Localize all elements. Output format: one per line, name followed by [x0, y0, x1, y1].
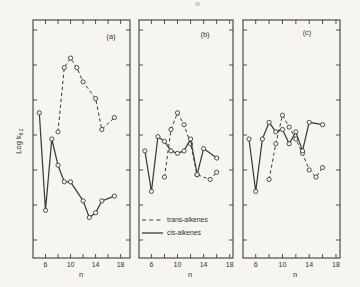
- panel-letter: (c): [303, 28, 312, 37]
- data-point-marker: [162, 139, 166, 143]
- data-point-marker: [314, 175, 318, 179]
- x-tick-label: 14: [305, 261, 313, 268]
- data-point-marker: [267, 120, 271, 124]
- data-point-marker: [175, 151, 179, 155]
- data-point-marker: [274, 142, 278, 146]
- y-axis-label: Log k6 2: [14, 128, 24, 154]
- data-point-marker: [307, 168, 311, 172]
- data-point-marker: [156, 135, 160, 139]
- scientific-figure: 6101418(a)n6101418(b)n6101418(c)nLog k6 …: [0, 0, 360, 287]
- x-tick-label: 14: [200, 261, 208, 268]
- x-axis-label: n: [188, 270, 192, 279]
- data-point-marker: [169, 149, 173, 153]
- data-point-marker: [100, 199, 104, 203]
- trans-series-line: [58, 58, 114, 132]
- data-point-marker: [254, 189, 258, 193]
- x-tick-label: 14: [92, 261, 100, 268]
- data-point-marker: [287, 125, 291, 129]
- data-point-marker: [75, 66, 79, 70]
- data-point-marker: [112, 194, 116, 198]
- data-point-marker: [274, 130, 278, 134]
- x-tick-label: 10: [279, 261, 287, 268]
- x-tick-label: 10: [174, 261, 182, 268]
- data-point-marker: [93, 211, 97, 215]
- data-point-marker: [182, 149, 186, 153]
- data-point-marker: [50, 137, 54, 141]
- data-point-marker: [321, 165, 325, 169]
- data-point-marker: [162, 175, 166, 179]
- chart-panel: 6101418(a)n: [33, 20, 130, 279]
- panel-letter: (b): [200, 30, 210, 39]
- data-point-marker: [37, 111, 41, 115]
- data-point-marker: [202, 146, 206, 150]
- data-point-marker: [208, 177, 212, 181]
- x-tick-label: 6: [254, 261, 258, 268]
- data-point-marker: [87, 215, 91, 219]
- x-tick-label: 18: [332, 261, 340, 268]
- x-tick-label: 6: [149, 261, 153, 268]
- x-tick-label: 6: [44, 261, 48, 268]
- data-point-marker: [195, 173, 199, 177]
- alkene-log-k-chart: 6101418(a)n6101418(b)n6101418(c)nLog k6 …: [0, 0, 360, 287]
- data-point-marker: [247, 137, 251, 141]
- x-axis-label: n: [293, 270, 297, 279]
- data-point-marker: [93, 96, 97, 100]
- data-point-marker: [260, 137, 264, 141]
- data-point-marker: [62, 180, 66, 184]
- data-point-marker: [81, 80, 85, 84]
- cis-series-line: [145, 137, 217, 192]
- data-point-marker: [68, 180, 72, 184]
- data-point-marker: [215, 156, 219, 160]
- chart-panel: 6101418(b)n: [139, 20, 234, 279]
- data-point-marker: [300, 149, 304, 153]
- data-point-marker: [149, 189, 153, 193]
- cis-series-line: [249, 122, 323, 191]
- data-point-marker: [100, 127, 104, 131]
- panel-border: [33, 20, 130, 258]
- data-point-marker: [307, 120, 311, 124]
- data-point-marker: [56, 163, 60, 167]
- x-tick-label: 10: [67, 261, 75, 268]
- data-point-marker: [43, 208, 47, 212]
- legend-label: trans-alkenes: [167, 216, 208, 223]
- data-point-marker: [56, 130, 60, 134]
- data-point-marker: [81, 199, 85, 203]
- data-point-marker: [62, 66, 66, 70]
- chart-panel: 6101418(c)n: [243, 20, 340, 279]
- data-point-marker: [169, 127, 173, 131]
- x-tick-label: 18: [117, 261, 125, 268]
- data-point-marker: [321, 123, 325, 127]
- legend-label: cis-alkenes: [167, 229, 202, 236]
- data-point-marker: [188, 137, 192, 141]
- data-point-marker: [68, 56, 72, 60]
- data-point-marker: [215, 170, 219, 174]
- data-point-marker: [287, 142, 291, 146]
- x-tick-label: 18: [226, 261, 234, 268]
- x-axis-label: n: [79, 270, 83, 279]
- data-point-marker: [143, 149, 147, 153]
- data-point-marker: [280, 127, 284, 131]
- data-point-marker: [182, 123, 186, 127]
- data-point-marker: [280, 113, 284, 117]
- data-point-marker: [267, 177, 271, 181]
- trans-series-line: [269, 115, 323, 179]
- panel-letter: (a): [106, 32, 116, 41]
- data-point-marker: [294, 130, 298, 134]
- data-point-marker: [112, 115, 116, 119]
- data-point-marker: [175, 111, 179, 115]
